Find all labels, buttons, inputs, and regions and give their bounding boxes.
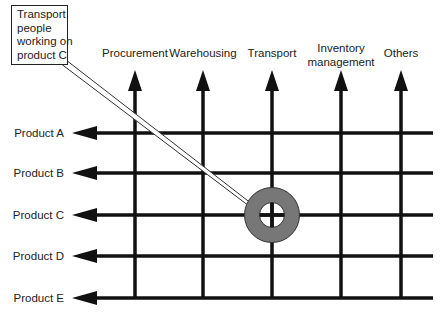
row-label-product-a: Product A <box>0 127 64 139</box>
column-arrows <box>128 70 408 298</box>
column-label-warehousing: Warehousing <box>169 46 236 60</box>
highlight-ring <box>245 188 300 243</box>
column-label-inventory-management: Inventory management <box>307 41 374 69</box>
callout-box: Transport people working on product C <box>11 5 68 65</box>
column-label-transport: Transport <box>248 46 297 60</box>
row-label-product-b: Product B <box>0 167 64 179</box>
row-label-product-d: Product D <box>0 250 64 262</box>
row-label-product-c: Product C <box>0 209 64 221</box>
column-label-procurement: Procurement <box>102 46 168 60</box>
row-label-product-e: Product E <box>0 292 64 304</box>
column-label-others: Others <box>384 46 419 60</box>
